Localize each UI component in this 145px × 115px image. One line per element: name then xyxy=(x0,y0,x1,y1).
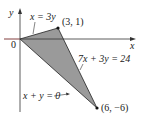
point-label-6-neg6: (6, −6) xyxy=(101,102,128,114)
leader-arrowhead-icon xyxy=(66,93,70,96)
origin-label: 0 xyxy=(11,39,16,50)
y-axis-label: y xyxy=(8,7,14,18)
x-axis-label: x xyxy=(129,40,135,51)
point-label-3-1: (3, 1) xyxy=(62,16,84,28)
line-label-x-plus-y-0: x + y = 0 xyxy=(22,90,60,101)
leader-x-eq-3y xyxy=(33,22,35,34)
region-diagram: y x 0 x = 3y (3, 1) 7x + 3y = 24 x + y =… xyxy=(0,0,145,115)
y-axis-arrow-icon xyxy=(18,8,22,14)
point-6-neg6 xyxy=(95,106,98,109)
point-3-1 xyxy=(56,26,59,29)
line-label-7x-3y-24: 7x + 3y = 24 xyxy=(78,53,130,64)
line-label-x-eq-3y: x = 3y xyxy=(29,11,56,22)
leader-7x-3y xyxy=(80,64,83,70)
